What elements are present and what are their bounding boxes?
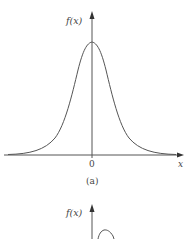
- skewed-curve: [98, 230, 114, 239]
- y-axis-b-arrow-icon: [90, 204, 95, 212]
- y-axis-label: f(x): [65, 15, 83, 26]
- caption-a: (a): [86, 176, 98, 186]
- figure: f(x) 0 x (a) f(x): [0, 0, 188, 239]
- x-axis-arrow-icon: [177, 153, 184, 158]
- plot-a: f(x) 0 x (a): [4, 11, 184, 186]
- plot-b: f(x): [65, 204, 114, 239]
- y-axis-label-b: f(x): [65, 207, 83, 218]
- x-tick-zero: 0: [89, 159, 95, 169]
- y-axis-arrow-icon: [90, 11, 95, 19]
- x-axis-label: x: [178, 159, 183, 169]
